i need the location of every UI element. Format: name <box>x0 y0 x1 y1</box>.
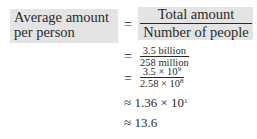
result-exponent: 1 <box>184 97 188 105</box>
fraction-total-over-people: Total amount Number of people <box>140 7 252 40</box>
numerator-exponent: 9 <box>177 65 181 73</box>
approx-sign: ≈ <box>124 95 131 110</box>
numerator: 3.5 billion <box>143 45 186 56</box>
equals-sign-3: = <box>124 72 132 86</box>
numerator-mantissa: 3.5 × 10 <box>143 66 178 77</box>
fraction-scientific: 3.5 × 109 2.58 × 108 <box>140 66 184 89</box>
denominator-mantissa: 2.58 × 10 <box>140 78 180 89</box>
approx-line-1: ≈ 1.36 × 101 <box>124 96 187 110</box>
approx-line-2: ≈ 13.6 <box>124 116 157 130</box>
equals-sign-2: = <box>124 50 132 64</box>
numerator: 3.5 × 109 <box>143 66 181 77</box>
denominator-exponent: 8 <box>180 77 184 85</box>
result-mantissa: 1.36 × 10 <box>134 95 184 110</box>
denominator: Number of people <box>143 25 249 40</box>
denominator: 2.58 × 108 <box>140 78 184 89</box>
fraction-billion-over-million: 3.5 billion 258 million <box>140 45 189 68</box>
equals-sign-1: = <box>124 18 132 32</box>
lhs-line-2: per person <box>14 25 109 40</box>
final-result: 13.6 <box>134 115 157 130</box>
numerator: Total amount <box>158 7 235 22</box>
lhs-line-1: Average amount <box>14 10 109 25</box>
lhs-label: Average amount per person <box>14 10 109 40</box>
approx-sign: ≈ <box>124 115 131 130</box>
